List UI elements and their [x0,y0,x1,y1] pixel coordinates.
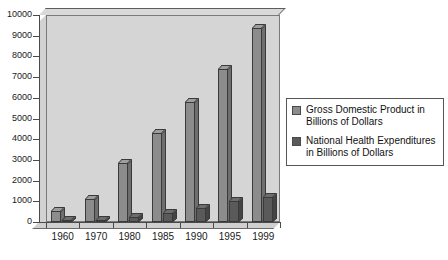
bar-face [218,69,228,222]
chart-legend: Gross Domestic Product in Billions of Do… [286,98,444,166]
plot-depth-left [39,15,46,229]
y-axis-label: 1000 [0,196,32,205]
legend-swatch-gdp-icon [292,106,301,115]
legend-label-nhe: National Health Expenditures in Billions… [306,135,436,159]
bar-side-face [273,193,277,222]
bar-side-face [195,98,199,222]
x-axis-tick [280,222,281,228]
y-axis-label: 9000 [0,31,32,40]
y-axis-tick [33,77,39,78]
bar-face [85,199,95,222]
legend-item-nhe: National Health Expenditures in Billions… [292,135,439,159]
legend-label-gdp: Gross Domestic Product in Billions of Do… [306,104,425,128]
y-axis-tick [33,119,39,120]
bar-nhe-1990 [196,208,206,222]
bar-face [118,163,128,222]
y-axis-label: 3000 [0,155,32,164]
bar-gdp-1985 [152,133,162,222]
bar-side-face [162,129,166,222]
x-axis-tick [213,222,214,228]
bar-face [252,28,262,222]
bar-face [129,217,139,222]
y-axis-line [39,15,40,223]
bar-nhe-1970 [96,220,106,222]
legend-swatch-nhe-icon [292,137,301,146]
bar-face [263,197,273,222]
bar-gdp-1980 [118,163,128,222]
bar-face [196,208,206,222]
x-axis-tick [180,222,181,228]
bar-nhe-1960 [62,220,72,222]
bar-face [96,220,106,222]
x-axis-tick [113,222,114,228]
y-axis-tick [33,181,39,182]
bar-side-face [262,25,266,222]
plot-depth-top [39,8,286,15]
legend-label-nhe-line2: in Billions of Dollars [306,147,393,158]
x-axis-line [39,222,281,223]
x-axis-label: 1999 [243,231,283,243]
y-axis-label: 7000 [0,72,32,81]
y-axis-tick [33,98,39,99]
bar-nhe-1995 [229,201,239,222]
bar-chart: 1000090008000700060005000400030002000100… [0,0,448,260]
y-axis-label: 4000 [0,134,32,143]
y-axis-label: 5000 [0,114,32,123]
bar-nhe-1999 [263,197,273,222]
y-axis-label: 6000 [0,93,32,102]
bar-nhe-1985 [163,213,173,222]
y-axis-label: 8000 [0,51,32,60]
bar-nhe-1980 [129,217,139,222]
bar-face [185,102,195,222]
y-axis-label: 0 [0,217,32,226]
legend-label-gdp-line1: Gross Domestic Product in [306,104,425,115]
bar-gdp-1999 [252,28,262,222]
bar-gdp-1995 [218,69,228,222]
y-axis-label: 10000 [0,10,32,19]
bar-face [163,213,173,222]
y-axis-tick [33,222,39,223]
y-axis-tick [33,139,39,140]
bar-face [62,220,72,222]
bar-gdp-1960 [51,211,61,222]
legend-label-gdp-line2: Billions of Dollars [306,116,383,127]
x-axis-tick [247,222,248,228]
y-axis-label: 2000 [0,176,32,185]
y-axis-tick [33,56,39,57]
legend-item-gdp: Gross Domestic Product in Billions of Do… [292,104,439,128]
y-axis-tick [33,15,39,16]
bar-gdp-1970 [85,199,95,222]
plot-floor [32,222,280,229]
bar-face [51,211,61,222]
y-axis-tick [33,36,39,37]
legend-label-nhe-line1: National Health Expenditures [306,135,436,146]
bar-gdp-1990 [185,102,195,222]
bar-face [152,133,162,222]
x-axis-tick [46,222,47,228]
y-axis-tick [33,201,39,202]
x-axis-tick [146,222,147,228]
x-axis-tick [79,222,80,228]
y-axis-tick [33,160,39,161]
bar-face [229,201,239,222]
